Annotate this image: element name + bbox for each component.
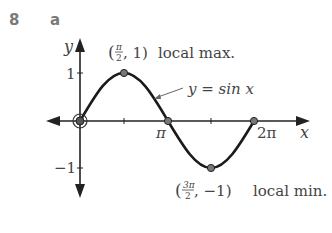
x-tick-label-pi: π <box>155 124 167 142</box>
x-tick-label-2pi: 2π <box>257 124 277 142</box>
curve-label-arrow <box>158 88 183 97</box>
svg-text:, −1): , −1) <box>194 182 232 200</box>
min-point <box>207 164 214 171</box>
svg-text:π: π <box>115 42 123 52</box>
svg-text:2: 2 <box>116 53 122 63</box>
svg-text:, 1): , 1) <box>123 44 148 62</box>
max-label: local max. <box>158 44 235 62</box>
x-axis-label: x <box>300 123 309 142</box>
y-axis-arrow-up-icon <box>75 38 85 52</box>
svg-text:(: ( <box>108 42 115 62</box>
y-axis-label: y <box>63 37 74 56</box>
sine-graph: y x 1 −1 π 2π ( π 2 , 1) local max. y = … <box>0 0 332 233</box>
y-axis-arrow-down-icon <box>75 184 85 198</box>
max-annotation: ( π 2 , 1) local max. <box>108 42 235 63</box>
y-tick-label-neg1: −1 <box>54 159 76 177</box>
max-point <box>120 69 127 76</box>
svg-text:(: ( <box>175 180 182 200</box>
svg-text:2: 2 <box>185 191 191 201</box>
x-axis-arrow-left-icon <box>46 116 60 126</box>
min-annotation: ( 3π 2 , −1) local min. <box>175 180 327 201</box>
min-label: local min. <box>253 182 327 200</box>
curve-label: y = sin x <box>187 80 255 98</box>
arrow-head-icon <box>154 94 161 99</box>
origin-point <box>76 117 84 125</box>
y-tick-label-1: 1 <box>66 65 76 83</box>
